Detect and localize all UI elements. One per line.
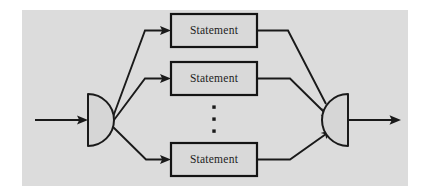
flowchart-figure: Statement Statement Statement [0, 0, 424, 194]
diagram-canvas: Statement Statement Statement [0, 0, 424, 194]
statement-box-2[interactable]: Statement [171, 62, 257, 95]
statement-box-1-label: Statement [190, 24, 239, 36]
statement-box-3[interactable]: Statement [171, 143, 257, 176]
statement-box-3-label: Statement [190, 153, 239, 165]
statement-box-1[interactable]: Statement [171, 14, 257, 47]
statement-box-2-label: Statement [190, 72, 239, 84]
